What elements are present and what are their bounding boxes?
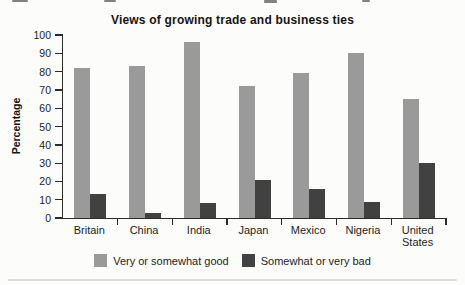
bar-very-or-somewhat-good-china (129, 66, 145, 218)
y-axis-tick (55, 144, 63, 145)
legend-item-very-or-somewhat-good: Very or somewhat good (94, 254, 229, 267)
y-axis-tick-label: 80 (25, 66, 51, 78)
scan-artifact (8, 279, 457, 281)
x-axis-label-india: India (171, 224, 226, 236)
y-axis-tick (55, 163, 63, 164)
bar-very-or-somewhat-good-britain (74, 68, 90, 218)
y-axis-tick (55, 71, 63, 72)
scan-artifact (104, 0, 116, 2)
y-axis-tick (55, 126, 63, 127)
y-axis-tick-label: 30 (25, 157, 51, 169)
y-axis-tick-label: 10 (25, 194, 51, 206)
bar-very-or-somewhat-good-japan (239, 86, 255, 218)
legend-swatch-icon (94, 254, 107, 267)
x-axis-label-britain: Britain (62, 224, 117, 236)
x-axis-label-nigeria: Nigeria (336, 224, 391, 236)
plot-area: 0102030405060708090100 (62, 35, 446, 219)
y-axis-tick (55, 34, 63, 35)
y-axis-tick (55, 89, 63, 90)
x-axis-label-united-states: United States (390, 224, 445, 248)
y-axis-tick (55, 53, 63, 54)
scan-artifact (264, 0, 277, 3)
x-axis-tick (445, 218, 446, 225)
y-axis-tick-label: 90 (25, 47, 51, 59)
bar-somewhat-or-very-bad-britain (90, 194, 106, 218)
legend-swatch-icon (242, 254, 255, 267)
y-axis-tick-label: 50 (25, 121, 51, 133)
y-axis-label: Percentage (10, 81, 24, 171)
bar-somewhat-or-very-bad-united-states (419, 163, 435, 218)
bar-somewhat-or-very-bad-nigeria (364, 202, 380, 218)
bar-very-or-somewhat-good-united-states (403, 99, 419, 218)
y-axis-tick-label: 60 (25, 102, 51, 114)
legend-item-somewhat-or-very-bad: Somewhat or very bad (242, 254, 371, 267)
chart-title: Views of growing trade and business ties (0, 13, 465, 27)
chart-figure: Views of growing trade and business ties… (0, 0, 465, 285)
bar-very-or-somewhat-good-india (184, 42, 200, 218)
legend-label: Somewhat or very bad (261, 255, 371, 267)
bar-very-or-somewhat-good-nigeria (348, 53, 364, 218)
scan-artifact (12, 0, 28, 2)
x-axis-label-china: China (117, 224, 172, 236)
y-axis-tick (55, 108, 63, 109)
x-axis-label-mexico: Mexico (281, 224, 336, 236)
y-axis-tick (55, 199, 63, 200)
y-axis-tick (55, 217, 63, 218)
y-axis-tick-label: 20 (25, 175, 51, 187)
y-axis-tick (55, 181, 63, 182)
y-axis-tick-label: 0 (25, 212, 51, 224)
x-axis-label-japan: Japan (226, 224, 281, 236)
bar-somewhat-or-very-bad-mexico (309, 189, 325, 218)
legend: Very or somewhat goodSomewhat or very ba… (0, 254, 465, 267)
y-axis-tick-label: 100 (25, 29, 51, 41)
bar-somewhat-or-very-bad-japan (255, 180, 271, 218)
bar-very-or-somewhat-good-mexico (293, 73, 309, 218)
scan-artifact (362, 0, 370, 2)
bar-somewhat-or-very-bad-china (145, 213, 161, 218)
bar-somewhat-or-very-bad-india (200, 203, 216, 218)
y-axis-tick-label: 70 (25, 84, 51, 96)
legend-label: Very or somewhat good (113, 255, 229, 267)
y-axis-tick-label: 40 (25, 139, 51, 151)
